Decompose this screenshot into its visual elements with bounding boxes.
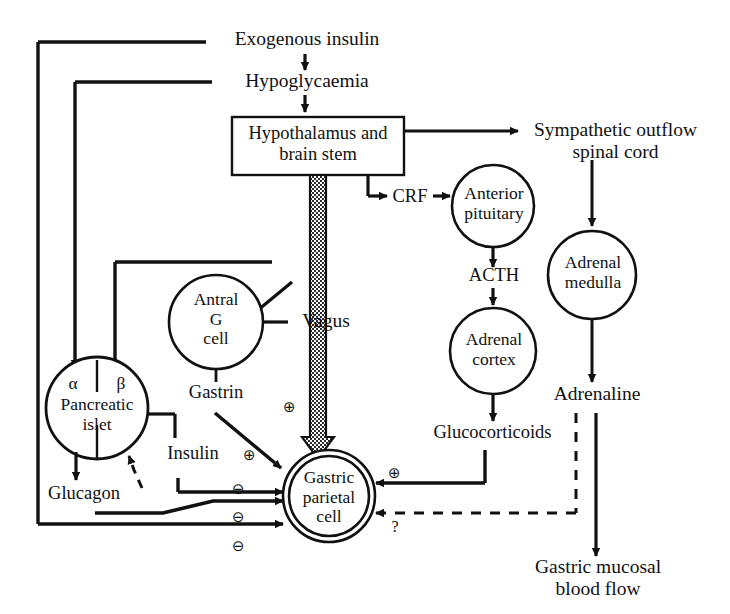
- node-hypothalamus-brain-stem: Hypothalamus and brain stem: [234, 123, 402, 164]
- node-glucocorticoids: Glucocorticoids: [400, 422, 585, 443]
- plus-sign-glucocorticoids: ⊕: [388, 466, 401, 481]
- node-glucagon: Glucagon: [24, 483, 144, 504]
- node-adrenal-cortex: Adrenal cortex: [448, 330, 540, 369]
- node-adrenal-medulla: Adrenal medulla: [545, 253, 641, 292]
- node-hypoglycaemia: Hypoglycaemia: [222, 70, 392, 92]
- minus-sign-glucagon: ⊖: [232, 510, 245, 525]
- node-vagus: Vagus: [288, 310, 364, 332]
- diagram-canvas: Exogenous insulin Hypoglycaemia Hypothal…: [0, 0, 730, 614]
- plus-sign-vagus: ⊕: [283, 400, 296, 415]
- node-acth: ACTH: [458, 265, 530, 286]
- node-sympathetic-outflow: Sympathetic outflow spinal cord: [508, 119, 723, 163]
- node-alpha-cell-label: α: [62, 374, 84, 394]
- node-crf: CRF: [384, 186, 436, 207]
- node-anterior-pituitary: Anterior pituitary: [448, 184, 540, 223]
- node-antral-g-cell: Antral G cell: [176, 290, 256, 349]
- node-gastric-mucosal-blood-flow: Gastric mucosal blood flow: [502, 556, 694, 600]
- node-gastric-parietal-cell: Gastric parietal cell: [285, 468, 373, 527]
- minus-sign-insulin: ⊖: [232, 482, 245, 497]
- node-pancreatic-islet: Pancreatic islet: [44, 395, 150, 434]
- node-exogenous-insulin: Exogenous insulin: [212, 28, 402, 50]
- node-gastrin: Gastrin: [164, 382, 268, 403]
- node-adrenaline: Adrenaline: [524, 383, 670, 405]
- question-mark-annotation: ?: [388, 518, 402, 536]
- plus-sign-gastrin: ⊕: [243, 448, 256, 463]
- node-beta-cell-label: β: [110, 374, 132, 394]
- minus-sign-bottom-loop: ⊖: [232, 539, 245, 554]
- node-insulin: Insulin: [145, 443, 241, 464]
